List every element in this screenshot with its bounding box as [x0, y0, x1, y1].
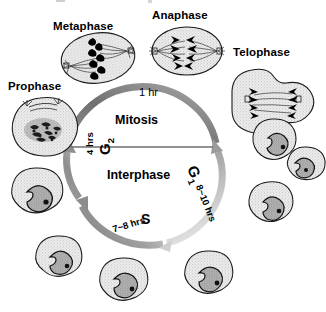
interphase-cell-6 [36, 236, 82, 276]
cropped-top-text [0, 0, 326, 4]
cell-prophase [12, 98, 77, 157]
arc-g2 [67, 152, 79, 198]
label-interphase: Interphase [107, 168, 170, 182]
interphase-cell-2 [287, 147, 325, 180]
interphase-cell-5 [100, 258, 148, 300]
label-telophase: Telophase [233, 46, 290, 58]
label-g2-group: G2 [96, 138, 116, 155]
label-mitosis-duration: 1 hr [139, 86, 158, 98]
cell-metaphase [58, 28, 138, 88]
cell-anaphase [149, 27, 225, 75]
interphase-cell-4 [185, 251, 233, 293]
interphase-cell-3 [249, 182, 293, 222]
interphase-cell-1 [253, 119, 296, 160]
cropped-glyph-marks [0, 0, 326, 4]
label-g2: G [96, 143, 113, 155]
label-g2-subscript: 2 [105, 138, 116, 143]
label-anaphase: Anaphase [152, 9, 208, 21]
cell-cycle-diagram: Prophase Metaphase Anaphase Telophase Mi… [0, 0, 326, 312]
label-prophase: Prophase [8, 80, 61, 92]
label-g2-duration: 4 hrs [84, 132, 95, 155]
interphase-cell-7 [12, 168, 63, 213]
label-metaphase: Metaphase [53, 20, 113, 32]
label-mitosis: Mitosis [115, 113, 158, 127]
